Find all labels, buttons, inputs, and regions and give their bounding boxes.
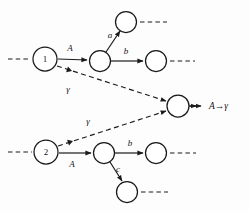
edge-label-b-top: b	[124, 46, 129, 56]
edge-gamma-n1-to-merge	[57, 66, 166, 101]
node-bot-branch-b-circle	[146, 143, 167, 164]
node-1-text: 1	[43, 54, 48, 64]
node-bot-branch-c-circle	[117, 182, 138, 203]
node-2-text: 2	[44, 147, 49, 157]
diagram-canvas: 12 AabγγAbc A→γ	[0, 0, 249, 213]
node-1: 1	[33, 47, 57, 71]
mid-arrowheads-group	[66, 66, 74, 145]
node-top-branch-b	[146, 51, 167, 72]
arrowhead-gamma-top-start	[66, 66, 73, 74]
edge-gamma-n2-to-merge	[58, 111, 166, 146]
node-top-branch-a	[116, 12, 137, 33]
result-label: A→γ	[208, 101, 228, 111]
node-merge	[167, 95, 189, 117]
nodes-group: 12	[33, 12, 189, 203]
edge-label-A-top: A	[66, 43, 73, 53]
edge-label-gamma-bot: γ	[86, 116, 90, 126]
diagram-svg: 12 AabγγAbc A→γ	[0, 0, 249, 213]
node-bot-mid	[94, 143, 115, 164]
node-top-mid	[90, 51, 111, 72]
edge-n1-to-top-mid	[58, 59, 87, 60]
node-bot-mid-circle	[94, 143, 115, 164]
dashed-edges-group	[57, 66, 166, 146]
edge-label-c-bot: c	[116, 164, 120, 174]
node-merge-circle	[167, 95, 189, 117]
edge-label-b-bot: b	[128, 138, 133, 148]
edge-label-a-top: a	[108, 30, 113, 40]
node-top-branch-b-circle	[146, 51, 167, 72]
arrowhead-gamma-bot-start	[67, 138, 74, 146]
node-2: 2	[34, 140, 58, 164]
node-top-branch-a-circle	[116, 12, 137, 33]
node-bot-branch-b	[146, 143, 167, 164]
edge-label-A-bot: A	[68, 159, 75, 169]
node-bot-branch-c	[117, 182, 138, 203]
edge-label-gamma-top: γ	[66, 84, 70, 94]
node-top-mid-circle	[90, 51, 111, 72]
